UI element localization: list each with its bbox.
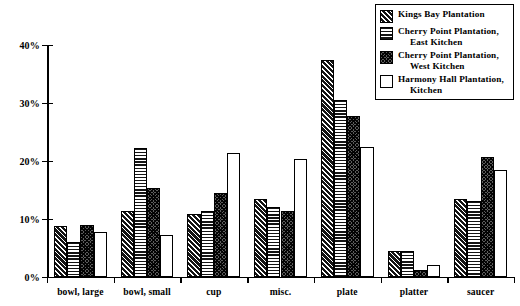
x-axis-category-label: platter [400, 286, 428, 297]
bar [187, 214, 200, 277]
bar [80, 225, 93, 277]
legend-swatch-icon [380, 51, 393, 64]
legend-item[interactable]: Cherry Point Plantation,East Kitchen [380, 26, 510, 47]
x-axis-category-label: plate [337, 286, 358, 297]
y-axis-tick-label: 0% [2, 272, 40, 283]
bar [467, 201, 480, 277]
x-axis-tick [114, 277, 115, 283]
legend-swatch-icon [380, 27, 393, 40]
legend-swatch-icon [380, 10, 393, 23]
bar [494, 170, 507, 277]
bar [414, 270, 427, 277]
x-axis-tick [514, 277, 515, 283]
x-axis-tick [180, 277, 181, 283]
x-axis-category-label: misc. [270, 286, 292, 297]
bar [294, 159, 307, 277]
x-axis-tick [381, 277, 382, 283]
y-axis-tick-label: 10% [2, 214, 40, 225]
bar [94, 232, 107, 277]
bar [334, 100, 347, 277]
x-axis-category-label: bowl, large [57, 286, 103, 297]
y-axis-tick-label: 40% [2, 40, 40, 51]
bar [227, 153, 240, 277]
legend-item-label: Harmony Hall Plantation,Kitchen [398, 74, 504, 95]
x-axis-tick [247, 277, 248, 283]
x-axis-tick [447, 277, 448, 283]
bar [67, 242, 80, 277]
x-axis-tick [314, 277, 315, 283]
bar [281, 211, 294, 277]
x-axis-category-label: saucer [467, 286, 494, 297]
y-axis-tick-label: 30% [2, 98, 40, 109]
legend-item[interactable]: Kings Bay Plantation [380, 9, 510, 23]
bar [321, 60, 334, 278]
y-axis-labels: 0%10%20%30%40% [0, 0, 40, 306]
bar [388, 251, 401, 277]
bar [427, 265, 440, 277]
bar [401, 251, 414, 277]
legend-item-label: Kings Bay Plantation [398, 9, 485, 20]
y-axis-tick-label: 20% [2, 156, 40, 167]
bar [254, 199, 267, 277]
bar [360, 147, 373, 278]
bar [121, 211, 134, 277]
x-axis-category-label: bowl, small [123, 286, 170, 297]
bar [347, 116, 360, 277]
bar-chart: 0%10%20%30%40% bowl, largebowl, smallcup… [0, 0, 520, 306]
bar [454, 199, 467, 277]
legend-item[interactable]: Cherry Point Plantation,West Kitchen [380, 50, 510, 71]
x-axis-tick [47, 277, 48, 283]
bar [201, 211, 214, 277]
bar [54, 226, 67, 277]
legend-item-label: Cherry Point Plantation,East Kitchen [398, 26, 499, 47]
bar [214, 193, 227, 277]
legend: Kings Bay PlantationCherry Point Plantat… [375, 4, 514, 100]
x-axis-category-label: cup [206, 286, 221, 297]
bar [134, 148, 147, 277]
bar [267, 207, 280, 277]
legend-item-label: Cherry Point Plantation,West Kitchen [398, 50, 499, 71]
bar [160, 235, 173, 277]
bar [481, 157, 494, 277]
bar [147, 188, 160, 277]
legend-swatch-icon [380, 75, 393, 88]
legend-item[interactable]: Harmony Hall Plantation,Kitchen [380, 74, 510, 95]
